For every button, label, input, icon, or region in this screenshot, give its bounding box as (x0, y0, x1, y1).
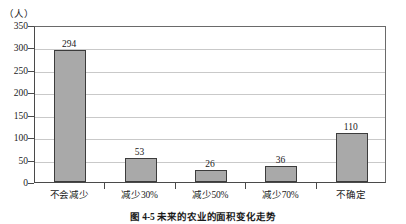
y-axis-label: 50 (0, 156, 28, 166)
bar-value-label: 294 (44, 39, 94, 49)
x-axis-category-label: 不会减少 (34, 190, 104, 201)
x-axis-category-label: 减少30% (105, 190, 175, 201)
y-axis-tick (28, 48, 34, 49)
gridline (35, 139, 385, 140)
y-axis-label: 100 (0, 133, 28, 143)
bar (54, 50, 86, 182)
bar (125, 158, 157, 182)
bar-chart-figure: （人） 050100150200250300350 294532636110 不… (0, 0, 406, 224)
y-axis-tick (28, 183, 34, 184)
bar-value-label: 110 (326, 122, 376, 132)
x-axis-tick (175, 183, 176, 189)
y-axis-label: 0 (0, 178, 28, 188)
bar (336, 133, 368, 182)
y-axis-tick (28, 93, 34, 94)
y-axis-tick (28, 26, 34, 27)
figure-caption: 图 4-5 未来的农业的面积变化走势 (0, 211, 406, 223)
x-axis-tick (316, 183, 317, 189)
x-axis-category-label: 不确定 (316, 190, 386, 201)
y-axis-unit-label: （人） (4, 9, 33, 20)
bar-value-label: 53 (115, 147, 165, 157)
y-axis-tick (28, 138, 34, 139)
gridline (35, 72, 385, 73)
bar (265, 166, 297, 182)
bar-value-label: 36 (255, 155, 305, 165)
x-axis-category-label: 减少50% (175, 190, 245, 201)
y-axis-tick (28, 116, 34, 117)
gridline (35, 117, 385, 118)
gridline (35, 49, 385, 50)
y-axis-label: 250 (0, 66, 28, 76)
y-axis-label: 150 (0, 111, 28, 121)
x-axis-tick (104, 183, 105, 189)
x-axis-category-label: 减少70% (245, 190, 315, 201)
y-axis-label: 300 (0, 43, 28, 53)
bar (195, 170, 227, 182)
y-axis-tick (28, 161, 34, 162)
gridline (35, 94, 385, 95)
y-axis-label: 350 (0, 21, 28, 31)
y-axis-label: 200 (0, 88, 28, 98)
x-axis-tick (245, 183, 246, 189)
bar-value-label: 26 (185, 159, 235, 169)
y-axis-tick (28, 71, 34, 72)
